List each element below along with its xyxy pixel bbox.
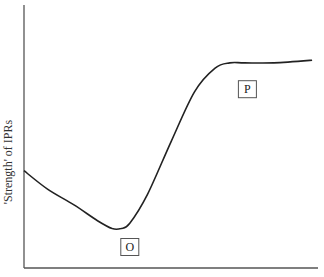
y-axis-label: 'Strength' of IPRs [1, 120, 15, 205]
annotation-label: O [125, 240, 134, 254]
annotation-label: P [244, 82, 251, 96]
annotation-o: O [121, 239, 139, 256]
chart: 'Strength' of IPRs OP [0, 0, 324, 277]
series-line [24, 60, 312, 229]
annotation-p: P [238, 81, 256, 98]
annotations: OP [121, 81, 257, 256]
